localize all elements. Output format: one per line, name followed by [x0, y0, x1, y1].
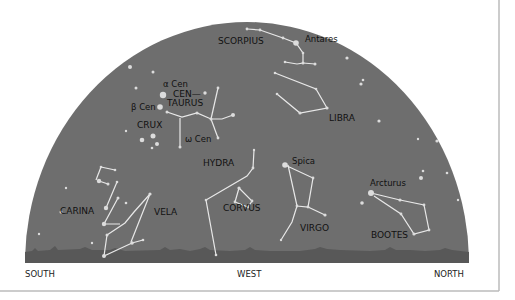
- label-virgo: VIRGO: [300, 223, 329, 233]
- label-libra: LIBRA: [329, 113, 356, 123]
- label-vela: VELA: [154, 207, 178, 217]
- label-antares: Antares: [305, 34, 338, 44]
- label-scorpius: SCORPIUS: [218, 36, 264, 46]
- label-crux: CRUX: [137, 120, 162, 130]
- label-hydra: HYDRA: [203, 158, 235, 168]
- label-centaurus-2: TAURUS: [166, 98, 203, 108]
- label-corvus: CORVUS: [223, 203, 261, 213]
- sky-dome: [25, 22, 469, 263]
- direction-south: SOUTH: [25, 269, 55, 279]
- direction-north: NORTH: [434, 269, 464, 279]
- label-spica: Spica: [292, 156, 315, 166]
- label-alpha-cen: α Cen: [163, 79, 188, 89]
- label-carina: CARINA: [60, 206, 95, 216]
- label-omega-cen: ω Cen: [185, 134, 211, 144]
- sky-chart: SCORPIUS LIBRA CEN— TAURUS CRUX HYDRA CO…: [0, 0, 515, 300]
- direction-west: WEST: [237, 269, 262, 279]
- label-arcturus: Arcturus: [370, 178, 406, 188]
- label-beta-cen: β Cen: [131, 102, 156, 112]
- label-bootes: BOOTES: [371, 230, 408, 240]
